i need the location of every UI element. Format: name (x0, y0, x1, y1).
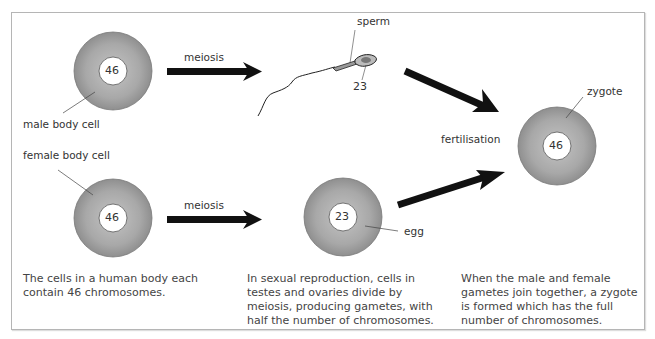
egg-chromosome-count: 23 (335, 210, 349, 223)
sperm-label: sperm (357, 15, 390, 27)
male-body-cell-label: male body cell (23, 118, 100, 130)
female-cell-chromosome-count: 46 (105, 211, 119, 224)
meiosis-arrow-top (167, 62, 262, 81)
fertilisation-arrow-sperm (405, 71, 499, 112)
female-body-cell-label: female body cell (23, 149, 110, 161)
caption-fertilisation: When the male and female gametes join to… (461, 272, 641, 328)
fertilisation-arrow-egg (398, 170, 505, 205)
caption-meiosis: In sexual reproduction, cells in testes … (247, 272, 437, 328)
female-cell-pointer (58, 170, 93, 195)
zygote-label: zygote (587, 85, 622, 97)
meiosis-label-top: meiosis (184, 51, 224, 63)
meiosis-label-bottom: meiosis (184, 199, 224, 211)
sperm-pointer (350, 30, 355, 63)
sperm-cell (258, 30, 376, 116)
zygote-chromosome-count: 46 (549, 139, 563, 152)
egg-cell (304, 178, 398, 256)
sperm-chromosome-count: 23 (353, 80, 367, 93)
caption-body-cells: The cells in a human body each contain 4… (23, 272, 203, 300)
sperm-nucleus-pointer (362, 65, 366, 80)
meiosis-arrow-bottom (167, 210, 262, 229)
egg-label: egg (404, 225, 424, 237)
male-cell-chromosome-count: 46 (105, 64, 119, 77)
fertilisation-label: fertilisation (441, 133, 500, 145)
